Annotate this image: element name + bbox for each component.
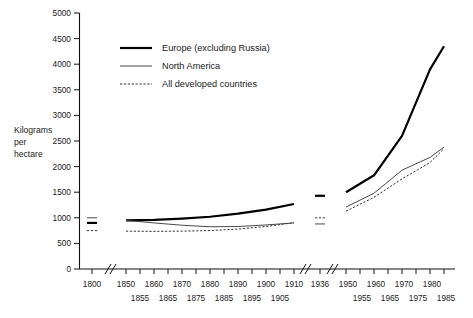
series-all-developed-countries [87, 149, 444, 232]
x-tick-label-1855: 1855 [131, 293, 150, 303]
legend-label-europe: Europe (excluding Russia) [162, 43, 270, 53]
x-tick-label-1890: 1890 [229, 279, 248, 289]
x-tick-label-1936: 1936 [311, 279, 330, 289]
x-axis: 1800 1850 1860 1870 1880 1890 1900 1910 … [80, 264, 456, 303]
x-tick-label-1985: 1985 [437, 293, 456, 303]
x-tick-label-1970: 1970 [395, 279, 414, 289]
x-tick-label-1865: 1865 [159, 293, 178, 303]
y-tick-label-4500: 4500 [53, 34, 72, 44]
y-tick-label-2500: 2500 [53, 136, 72, 146]
y-tick-label-4000: 4000 [53, 59, 72, 69]
x-tick-label-1965: 1965 [381, 293, 400, 303]
series-segment [126, 220, 294, 226]
y-axis: 0 500 1000 1500 2000 2500 3000 3500 4000… [53, 8, 80, 274]
y-tick-label-5000: 5000 [53, 8, 72, 18]
y-axis-title-line-2: per [14, 137, 27, 147]
x-tick-label-1980: 1980 [423, 279, 442, 289]
x-tick-label-1875: 1875 [187, 293, 206, 303]
series-segment [126, 204, 294, 220]
x-tick-label-1850: 1850 [117, 279, 136, 289]
x-tick-label-1860: 1860 [145, 279, 164, 289]
series-segment [346, 147, 444, 207]
y-tick-label-0: 0 [66, 264, 71, 274]
x-tick-label-1905: 1905 [271, 293, 290, 303]
y-axis-title-line-3: hectare [14, 149, 43, 159]
legend: Europe (excluding Russia) North America … [120, 43, 270, 89]
x-tick-label-1895: 1895 [243, 293, 262, 303]
y-tick-label-1500: 1500 [53, 187, 72, 197]
x-tick-label-1950: 1950 [339, 279, 358, 289]
series-segment [346, 46, 444, 192]
x-tick-label-1955: 1955 [353, 293, 372, 303]
y-tick-label-500: 500 [57, 238, 71, 248]
y-tick-label-1000: 1000 [53, 213, 72, 223]
x-tick-label-1960: 1960 [367, 279, 386, 289]
y-tick-label-3000: 3000 [53, 110, 72, 120]
x-tick-label-1885: 1885 [215, 293, 234, 303]
x-tick-label-1880: 1880 [201, 279, 220, 289]
y-axis-title-line-1: Kilograms [14, 125, 52, 135]
y-tick-label-2000: 2000 [53, 162, 72, 172]
line-chart: 0 500 1000 1500 2000 2500 3000 3500 4000… [0, 0, 473, 318]
y-axis-title: Kilograms per hectare [14, 125, 52, 159]
legend-label-all-developed: All developed countries [162, 79, 257, 89]
x-tick-label-1900: 1900 [257, 279, 276, 289]
x-tick-label-1800: 1800 [83, 279, 102, 289]
x-tick-label-1975: 1975 [409, 293, 428, 303]
legend-label-north-america: North America [162, 61, 221, 71]
y-tick-label-3500: 3500 [53, 85, 72, 95]
x-ticks [92, 269, 444, 274]
series-north-america [87, 147, 444, 227]
x-tick-label-1910: 1910 [285, 279, 304, 289]
series-layer [87, 46, 444, 231]
x-tick-label-1870: 1870 [173, 279, 192, 289]
chart-canvas: 0 500 1000 1500 2000 2500 3000 3500 4000… [0, 0, 473, 318]
y-ticks [74, 13, 80, 269]
series-europe-excluding-russia [87, 46, 444, 223]
